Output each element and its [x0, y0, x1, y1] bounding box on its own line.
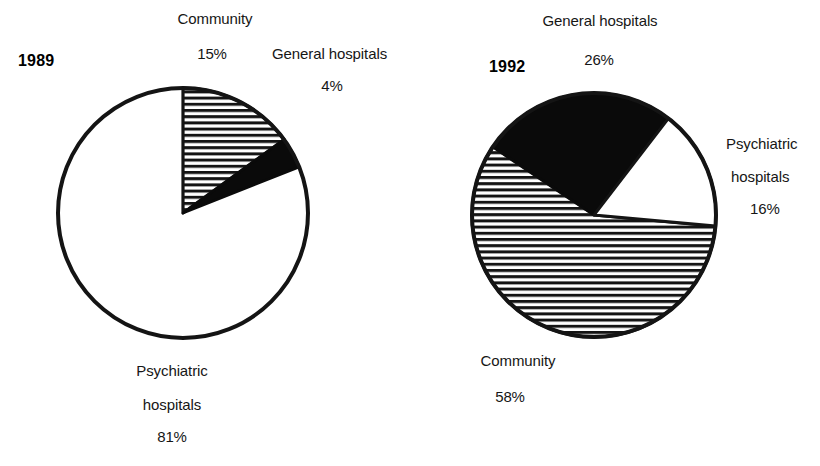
chart1-community-label: Community	[178, 10, 253, 27]
chart2-pie-svg	[462, 83, 726, 347]
chart1-pie-svg	[48, 78, 318, 348]
chart1-year-label: 1989	[18, 52, 54, 70]
chart1-general-hospitals-label: General hospitals	[272, 45, 387, 62]
chart1-community-percent: 15%	[197, 45, 227, 62]
chart2-pie	[462, 83, 726, 347]
chart2-general-hospitals-percent: 26%	[584, 51, 614, 68]
chart2-psychiatric-label-line2: hospitals	[731, 168, 789, 185]
chart2-community-label: Community	[481, 352, 556, 369]
chart1-psychiatric-label-line1: Psychiatric	[136, 362, 207, 379]
chart2-psychiatric-label-line1: Psychiatric	[726, 135, 797, 152]
chart2-psychiatric-percent: 16%	[750, 200, 780, 217]
chart1-pie	[48, 78, 318, 348]
chart2-community-percent: 58%	[495, 388, 525, 405]
chart1-general-hospitals-percent: 4%	[321, 77, 342, 94]
chart2-general-hospitals-label: General hospitals	[542, 12, 657, 29]
pie-chart-figure: 1989 Community 15% General hospitals 4% …	[0, 0, 820, 466]
chart1-psychiatric-percent: 81%	[157, 428, 187, 445]
chart2-year-label: 1992	[489, 58, 525, 76]
chart1-psychiatric-label-line2: hospitals	[143, 396, 201, 413]
